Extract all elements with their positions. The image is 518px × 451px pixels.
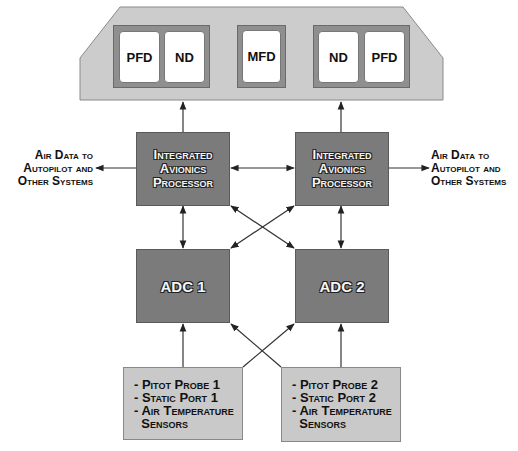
right-nd-label: ND xyxy=(329,50,348,65)
sensor-group-2: - Pitot Probe 2 - Static Port 2 - Air Te… xyxy=(281,367,401,442)
output-line: Other Systems xyxy=(5,175,93,188)
left-nd-label: ND xyxy=(175,50,194,65)
output-line: Other Systems xyxy=(431,175,506,188)
sensor-line: Sensors xyxy=(134,417,242,430)
left-avionics-processor: Integrated Avionics Processor xyxy=(136,132,230,206)
adc-2: ADC 2 xyxy=(295,249,389,323)
left-pfd-screen: PFD xyxy=(119,31,160,83)
processor-line: Processor xyxy=(312,176,372,190)
right-nd-screen: ND xyxy=(318,31,359,83)
right-pfd-label: PFD xyxy=(372,50,398,65)
left-pfd-label: PFD xyxy=(127,50,153,65)
mfd-screen: MFD xyxy=(242,30,281,83)
adc-2-label: ADC 2 xyxy=(319,278,364,295)
right-pfd-screen: PFD xyxy=(364,31,405,83)
sensor-group-1: - Pitot Probe 1 - Static Port 1 - Air Te… xyxy=(123,367,243,440)
right-output-label: Air Data to Autopilot and Other Systems xyxy=(431,149,506,188)
processor-line: Integrated xyxy=(312,148,372,162)
mfd-label: MFD xyxy=(247,49,275,64)
right-avionics-processor: Integrated Avionics Processor xyxy=(295,132,389,206)
left-nd-screen: ND xyxy=(164,31,205,83)
left-output-label: Air Data to Autopilot and Other Systems xyxy=(5,149,93,188)
processor-line: Processor xyxy=(153,176,213,190)
processor-line: Avionics xyxy=(153,162,213,176)
processor-line: Integrated xyxy=(153,148,213,162)
processor-line: Avionics xyxy=(312,162,372,176)
adc-1-label: ADC 1 xyxy=(160,278,205,295)
adc-1: ADC 1 xyxy=(136,249,230,323)
sensor-line: Sensors xyxy=(292,417,400,430)
